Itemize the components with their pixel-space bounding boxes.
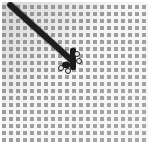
mesh-knot: [74, 51, 80, 57]
mesh-photo: [2, 2, 148, 142]
mesh-knot: [76, 58, 82, 64]
lighting-gradient: [2, 2, 148, 142]
mesh-knot: [65, 68, 71, 74]
mesh-knot: [58, 65, 64, 71]
